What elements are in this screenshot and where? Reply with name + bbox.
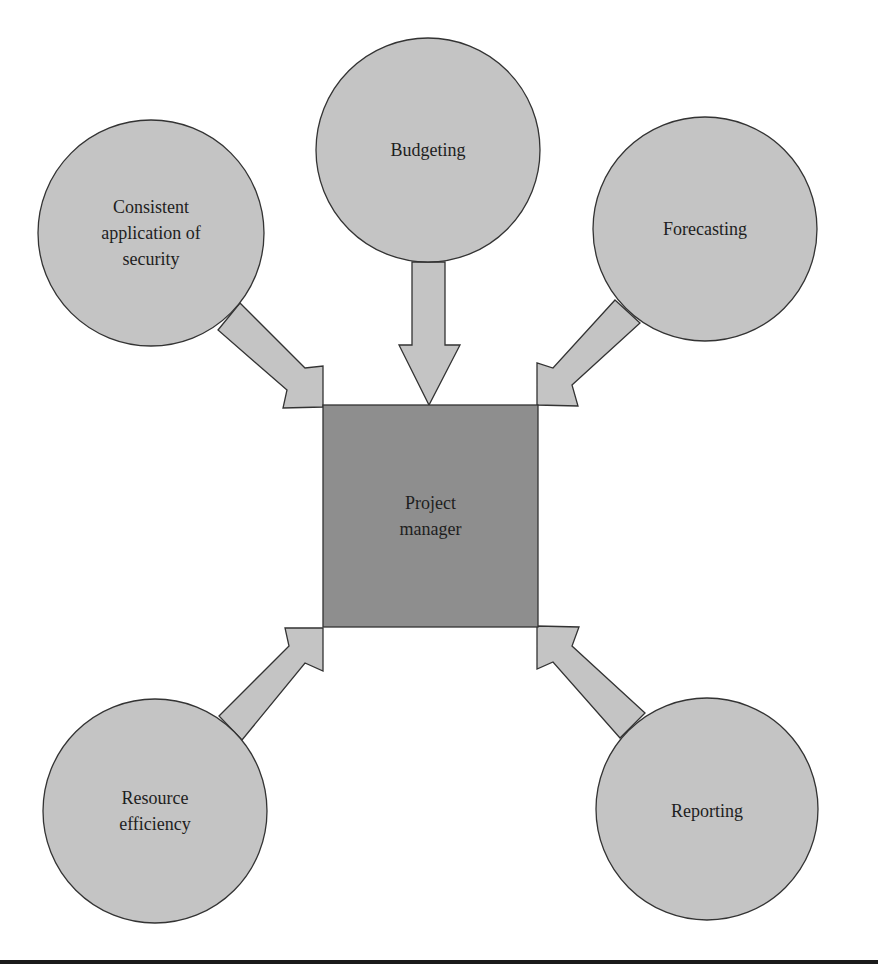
arrow-resource-efficiency-to-center	[219, 628, 323, 740]
diagram-canvas	[0, 0, 888, 980]
node-resource-efficiency-circle	[43, 699, 267, 923]
arrow-reporting-to-center	[537, 626, 645, 738]
arrow-budgeting-to-center	[399, 262, 460, 405]
arrow-forecasting-to-center	[537, 300, 640, 406]
bottom-rule-divider	[0, 960, 878, 964]
arrow-security-to-center	[218, 303, 323, 408]
node-budgeting-circle	[316, 38, 540, 262]
node-reporting-circle	[596, 698, 818, 920]
node-security-circle	[38, 120, 264, 346]
node-forecasting-circle	[593, 117, 817, 341]
center-node-project-manager	[323, 405, 538, 627]
